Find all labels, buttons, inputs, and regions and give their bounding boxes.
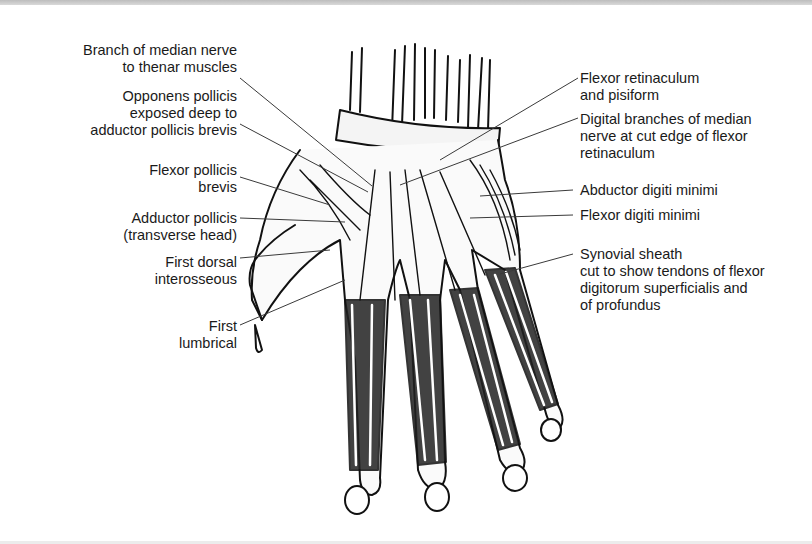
label-first-lumbrical: First lumbrical (179, 318, 237, 352)
label-flexor-digiti-minimi: Flexor digiti minimi (580, 207, 700, 224)
label-digital-branches-median-nerve: Digital branches of median nerve at cut … (580, 111, 752, 162)
leader-flexor-retinaculum (440, 78, 578, 160)
label-abductor-digiti-minimi: Abductor digiti minimi (580, 182, 718, 199)
forearm-tendon (350, 48, 362, 112)
label-flexor-retinaculum: Flexor retinaculum and pisiform (580, 70, 699, 104)
label-first-dorsal-interosseous: First dorsal interosseous (155, 254, 237, 288)
label-flexor-pollicis-brevis: Flexor pollicis brevis (149, 162, 237, 196)
label-adductor-pollicis: Adductor pollicis (transverse head) (123, 210, 237, 244)
label-opponens-pollicis: Opponens pollicis exposed deep to adduct… (90, 88, 237, 139)
label-synovial-sheath: Synovial sheath cut to show tendons of f… (580, 246, 765, 314)
label-branch-median-nerve: Branch of median nerve to thenar muscles (83, 42, 237, 76)
